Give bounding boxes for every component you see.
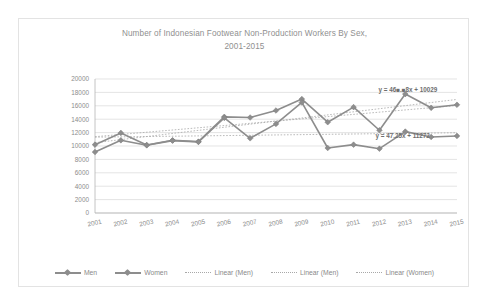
x-axis-tick-label: 2009 [294,218,310,228]
x-axis-tick-label: 2002 [113,218,129,228]
x-axis-tick-label: 2014 [423,218,439,228]
x-axis-tick-label: 2005 [190,218,206,228]
data-point-women-2015 [454,133,460,139]
x-axis-tick-label: 2003 [139,218,155,228]
x-axis-tick-label: 2004 [164,218,180,228]
x-axis-tick-label: 2006 [216,218,232,228]
legend-item-4[interactable]: Linear (Men) [271,269,339,276]
data-point-women-2011 [351,142,357,148]
data-point-women-2001 [92,149,98,155]
x-axis-tick-label: 2010 [320,218,336,228]
y-axis-tick-label: 20000 [71,75,89,82]
y-axis-tick-label: 8000 [75,156,90,163]
legend-item-3[interactable]: Linear (Men) [185,269,253,276]
x-axis-tick-label: 2001 [87,218,103,228]
legend-swatch-1 [55,269,81,276]
legend-label-2: Women [144,269,167,276]
data-point-men-2001 [92,142,98,148]
x-axis-tick-label: 2008 [268,218,284,228]
y-axis-tick-label: 2000 [75,196,90,203]
y-axis-tick-label: 0 [85,209,89,216]
x-axis-tick-label: 2015 [449,218,465,228]
data-point-men-2015 [454,102,460,108]
x-axis-tick-label: 2011 [346,218,361,228]
legend-swatch-2 [115,269,141,276]
data-point-women-2002 [118,137,124,143]
legend-swatch-3 [185,269,211,276]
y-axis-tick-label: 4000 [75,183,90,190]
trendline-equation-2: y = 47.25x + 11272 [376,132,431,140]
legend-item-2[interactable]: Women [115,269,167,276]
y-axis-tick-label: 10000 [71,142,89,149]
legend-swatch-5 [356,269,382,276]
chart-legend: MenWomenLinear (Men)Linear (Men)Linear (… [19,269,470,276]
legend-label-5: Linear (Women) [385,269,434,276]
chart-frame: Number of Indonesian Footwear Non-Produc… [18,18,469,287]
y-axis-tick-label: 12000 [71,129,89,136]
y-axis-tick-label: 14000 [71,116,89,123]
legend-swatch-4 [271,269,297,276]
y-axis-tick-label: 6000 [75,169,90,176]
data-point-men-2008 [273,108,279,114]
x-axis-tick-label: 2013 [397,218,413,228]
x-axis-tick-label: 2007 [242,218,258,228]
chart-plot-area: 0200040006000800010000120001400016000180… [19,19,470,288]
y-axis-tick-label: 16000 [71,102,89,109]
legend-item-1[interactable]: Men [55,269,97,276]
trendline-equation-1: y = 46■.■8x + 10029 [379,86,438,94]
x-axis-tick-label: 2012 [371,218,387,228]
y-axis-tick-label: 18000 [71,89,89,96]
legend-label-4: Linear (Men) [300,269,339,276]
legend-label-3: Linear (Men) [214,269,253,276]
legend-label-1: Men [84,269,97,276]
legend-item-5[interactable]: Linear (Women) [356,269,434,276]
data-point-women-2004 [170,138,176,144]
